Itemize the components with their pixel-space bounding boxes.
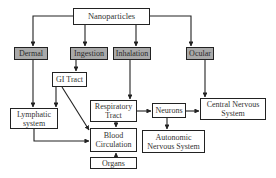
node-nanoparticles: Nanoparticles	[73, 8, 150, 25]
node-ingestion: Ingestion	[70, 47, 108, 60]
node-inhalation: Inhalation	[113, 47, 151, 60]
connector-arrows	[0, 0, 276, 178]
node-lymphatic-system: Lymphatic system	[10, 108, 58, 129]
node-dermal: Dermal	[14, 47, 48, 60]
node-neurons: Neurons	[152, 103, 186, 118]
node-ocular: Ocular	[186, 47, 214, 60]
nanoparticle-exposure-diagram: Nanoparticles Dermal Ingestion Inhalatio…	[0, 0, 276, 178]
node-blood-circulation: Blood Circulation	[90, 128, 137, 152]
node-central-nervous-system: Central Nervous System	[200, 98, 266, 120]
node-respiratory-tract: Respiratory Tract	[90, 100, 137, 122]
node-organs: Organs	[90, 157, 137, 169]
node-gi-tract: GI Tract	[52, 72, 87, 87]
node-autonomic-nervous-system: Autonomic Nervous System	[142, 130, 205, 153]
